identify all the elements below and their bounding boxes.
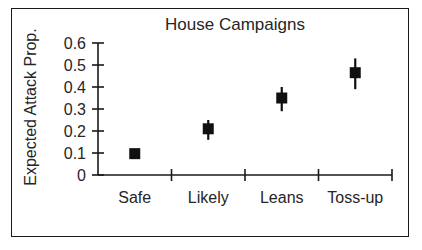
x-category-label: Safe <box>118 189 151 206</box>
data-series <box>129 58 361 159</box>
y-tick-label: 0.1 <box>64 145 86 162</box>
x-category-label: Likely <box>188 189 229 206</box>
x-category-label: Leans <box>260 189 304 206</box>
data-point-marker <box>276 93 287 104</box>
data-point-marker <box>203 123 214 134</box>
data-point-marker <box>350 67 361 78</box>
y-tick-label: 0.3 <box>64 101 86 118</box>
y-axis: 00.10.20.30.40.50.6 <box>64 35 104 184</box>
figure-container: House Campaigns Expected Attack Prop. 00… <box>0 0 422 250</box>
x-category-label: Toss-up <box>327 189 383 206</box>
y-tick-label: 0 <box>77 167 86 184</box>
data-point-marker <box>129 148 140 159</box>
y-tick-label: 0.5 <box>64 57 86 74</box>
x-axis: SafeLikelyLeansToss-up <box>98 169 392 206</box>
y-tick-label: 0.4 <box>64 79 86 96</box>
y-tick-label: 0.2 <box>64 123 86 140</box>
y-tick-label: 0.6 <box>64 35 86 52</box>
plot-area: 00.10.20.30.40.50.6 SafeLikelyLeansToss-… <box>0 0 422 250</box>
